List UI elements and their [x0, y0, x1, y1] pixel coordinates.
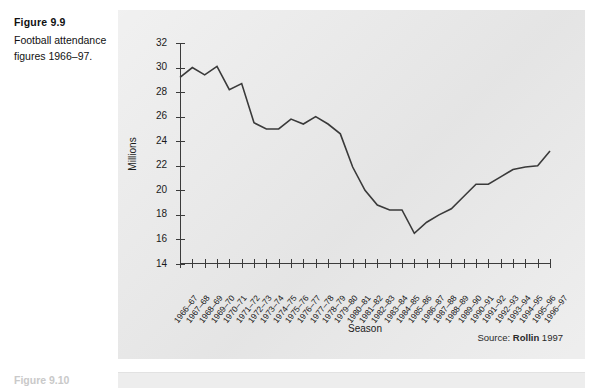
- y-axis-tick-label: 18: [156, 207, 167, 221]
- figure-caption-text: Football attendance figures 1966–97.: [14, 32, 110, 65]
- y-axis-title: Millions: [127, 137, 138, 170]
- figure-caption: Figure 9.9 Football attendance figures 1…: [14, 14, 110, 65]
- y-axis-tick-label: 14: [156, 257, 167, 271]
- next-figure-panel: [118, 372, 585, 388]
- chart-plot-area: 14161820222426283032 1966–671967–681968–…: [180, 43, 550, 264]
- source-prefix: Source:: [477, 332, 510, 343]
- attendance-line-series: [180, 43, 550, 264]
- source-year: 1997: [542, 332, 563, 343]
- y-axis-tick-label: 22: [156, 158, 167, 172]
- next-figure-caption: Figure 9.10: [14, 374, 110, 387]
- source-note: Source: Rollin 1997: [477, 332, 563, 343]
- y-axis-tick-label: 24: [156, 134, 167, 148]
- x-axis-title: Season: [348, 323, 382, 334]
- figure-caption-title: Figure 9.9: [14, 14, 110, 31]
- y-axis-tick-label: 26: [156, 109, 167, 123]
- y-axis-tick-label: 16: [156, 232, 167, 246]
- y-axis-tick-label: 32: [156, 36, 167, 50]
- figure-panel: 14161820222426283032 1966–671967–681968–…: [118, 10, 585, 359]
- y-axis-tick-label: 20: [156, 183, 167, 197]
- y-axis-tick-label: 30: [156, 60, 167, 74]
- y-axis-tick-label: 28: [156, 85, 167, 99]
- source-name: Rollin: [513, 332, 539, 343]
- x-axis-tick: 1996–97: [550, 259, 551, 268]
